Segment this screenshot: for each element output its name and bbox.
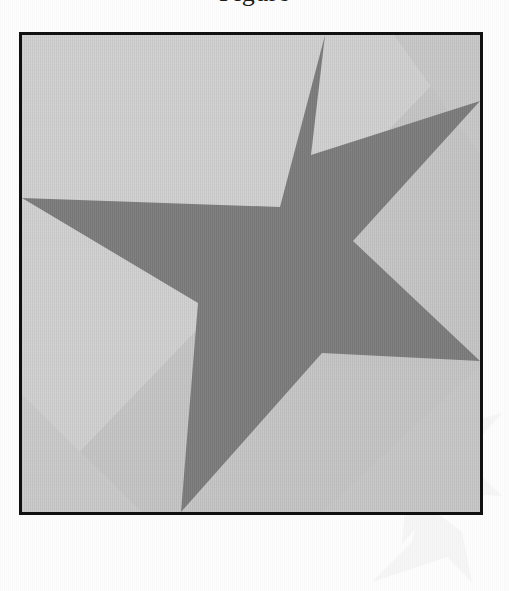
page-background: Figure <box>0 0 509 591</box>
figure-frame <box>19 32 483 515</box>
figure-caption-text: Figure <box>219 0 290 7</box>
figure-caption-cropped: Figure <box>0 0 509 8</box>
figure-canvas <box>22 35 480 512</box>
